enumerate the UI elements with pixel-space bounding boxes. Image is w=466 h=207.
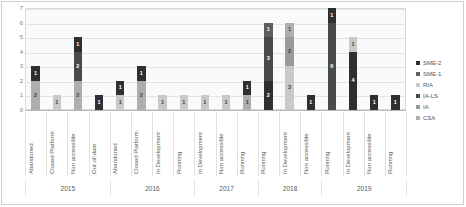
bar-segment: 2	[74, 52, 82, 81]
bar-segment: 1	[264, 23, 272, 38]
year-label: 2017	[194, 180, 258, 196]
category-label-cell: Running	[237, 112, 258, 176]
category-label: Running	[387, 110, 393, 174]
category-label-cell: Running	[173, 112, 194, 176]
category-label: Running	[324, 110, 330, 174]
bar-stack[interactable]: 12	[31, 66, 39, 110]
bar-segment: 1	[137, 66, 145, 81]
legend-item[interactable]: RIA	[416, 80, 466, 90]
bar-segment: 1	[95, 95, 103, 110]
bar-segment: 1	[349, 37, 357, 52]
year-label: 2016	[110, 180, 195, 196]
bar-stack[interactable]: 1	[53, 95, 61, 110]
bar-stack[interactable]: 12	[137, 66, 145, 110]
category-label: In Development	[345, 110, 351, 174]
category-label-cell: Closed Platform	[131, 112, 152, 176]
y-axis-tick-label: 5	[3, 34, 23, 40]
legend-item[interactable]: SME-1	[416, 69, 466, 79]
bar-segment: 6	[328, 23, 336, 110]
bar-segment: 1	[116, 95, 124, 110]
bar-segment: 1	[53, 95, 61, 110]
bar-segment: 1	[285, 23, 293, 38]
category-label: Non accessible	[303, 110, 309, 174]
legend-swatch-icon	[416, 83, 420, 87]
bar-segment: 3	[285, 66, 293, 110]
legend-item[interactable]: IA	[416, 102, 466, 112]
category-label-cell: Non accessible	[216, 112, 237, 176]
bar-segment: 1	[201, 95, 209, 110]
category-label-cell: In Development	[194, 112, 215, 176]
category-label-cell: In Development	[279, 112, 300, 176]
category-axis-end	[406, 112, 407, 176]
legend-swatch-icon	[416, 61, 420, 65]
category-label: Non accessible	[366, 110, 372, 174]
y-axis-tick-label: 6	[3, 20, 23, 26]
year-label: 2015	[25, 180, 110, 196]
category-label-cell: Non accessible	[364, 112, 385, 176]
bar-stack[interactable]: 123	[285, 23, 293, 110]
bar-stack[interactable]: 1	[158, 95, 166, 110]
category-label: Closed Platform	[133, 110, 139, 174]
category-label-cell: In Development	[152, 112, 173, 176]
legend-item[interactable]: CSA	[416, 113, 466, 123]
category-label-cell: Abandoned	[110, 112, 131, 176]
chart-legend: SME-2SME-1RIAIA-LSIACSA	[416, 58, 466, 124]
bar-segment: 3	[264, 37, 272, 81]
y-axis: 01234567	[0, 8, 23, 110]
legend-label: CSA	[423, 115, 435, 121]
legend-label: IA-LS	[423, 93, 438, 99]
bar-stack[interactable]: 1	[370, 95, 378, 110]
bar-segment: 1	[180, 95, 188, 110]
bar-stack[interactable]: 1	[222, 95, 230, 110]
bar-stack[interactable]: 16	[328, 8, 336, 110]
bar-stack[interactable]: 1	[307, 95, 315, 110]
legend-swatch-icon	[416, 72, 420, 76]
bar-segment: 1	[370, 95, 378, 110]
year-label: 2018	[258, 180, 322, 196]
year-axis-labels: 20152016201720182019	[25, 180, 406, 198]
bar-stack[interactable]: 1	[95, 95, 103, 110]
category-label: In Development	[197, 110, 203, 174]
category-label: Abandoned	[112, 110, 118, 174]
bar-stack[interactable]: 11	[116, 81, 124, 110]
legend-swatch-icon	[416, 116, 420, 120]
bar-stack[interactable]: 132	[264, 23, 272, 110]
category-label: Running	[239, 110, 245, 174]
bar-segment: 1	[116, 81, 124, 96]
bar-segment: 2	[31, 81, 39, 110]
category-label-cell: Non accessible	[67, 112, 88, 176]
category-axis-labels: AbandonedClosed PlatformNon accessibleOu…	[25, 112, 406, 178]
category-label-cell: In Development	[343, 112, 364, 176]
y-axis-tick-label: 1	[3, 92, 23, 98]
legend-label: RIA	[423, 82, 433, 88]
bar-segment: 1	[307, 95, 315, 110]
legend-swatch-icon	[416, 105, 420, 109]
category-label-cell: Closed Platform	[46, 112, 67, 176]
legend-item[interactable]: IA-LS	[416, 91, 466, 101]
bar-segment: 2	[264, 81, 272, 110]
bar-stack[interactable]: 1	[201, 95, 209, 110]
legend-item[interactable]: SME-2	[416, 58, 466, 68]
category-label: Non accessible	[218, 110, 224, 174]
legend-label: SME-2	[423, 60, 441, 66]
y-axis-tick-label: 3	[3, 63, 23, 69]
category-label-cell: Running	[385, 112, 406, 176]
bar-stack[interactable]: 11	[243, 81, 251, 110]
bar-stack[interactable]: 1	[391, 95, 399, 110]
bar-stack[interactable]: 1	[180, 95, 188, 110]
bar-segment: 2	[137, 81, 145, 110]
year-label: 2019	[321, 180, 406, 196]
bar-stack[interactable]: 14	[349, 37, 357, 110]
category-label-cell: Abandoned	[25, 112, 46, 176]
bar-segment: 1	[391, 95, 399, 110]
category-label: Running	[260, 110, 266, 174]
bar-segment: 2	[285, 37, 293, 66]
y-axis-tick-label: 7	[3, 5, 23, 11]
bar-segment: 1	[243, 95, 251, 110]
legend-label: IA	[423, 104, 429, 110]
bar-segment: 1	[74, 37, 82, 52]
category-label: In Development	[282, 110, 288, 174]
bar-stack[interactable]: 122	[74, 37, 82, 110]
chart-root: 01234567 121122111121111111321231161411 …	[0, 0, 466, 207]
category-label: Non accessible	[70, 110, 76, 174]
